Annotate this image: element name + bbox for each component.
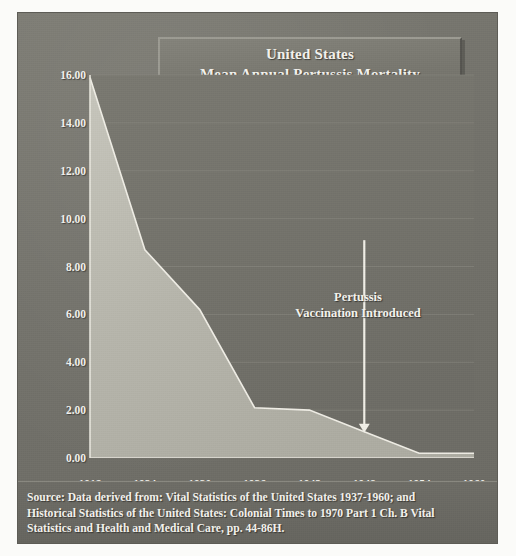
annotation-line-1: Pertussis (263, 289, 453, 305)
source-line-2: Historical Statistics of the United Stat… (27, 506, 488, 522)
plot-area (72, 62, 474, 458)
area-chart-svg (72, 62, 474, 458)
chart-figure: United States Mean Annual Pertussis Mort… (18, 13, 497, 543)
chart-title-line-1: United States (266, 44, 354, 64)
source-note: Source: Data derived from: Vital Statist… (18, 481, 497, 543)
annotation-line-2: Vaccination Introduced (263, 305, 453, 321)
vaccination-annotation: Pertussis Vaccination Introduced (263, 289, 453, 321)
source-line-3: Statistics and Health and Medical Care, … (27, 521, 488, 537)
source-line-1: Source: Data derived from: Vital Statist… (27, 490, 488, 506)
